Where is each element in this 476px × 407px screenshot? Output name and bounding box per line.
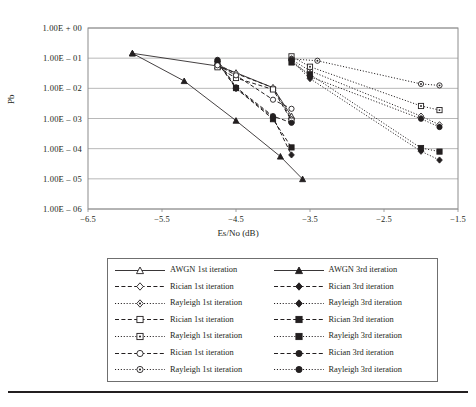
legend-triangle-open-icon: [114, 265, 166, 276]
legend-diamond-open-icon: [114, 281, 166, 292]
series-line: [218, 65, 292, 108]
legend-label: Rayleigh 3rd iteration: [329, 366, 403, 374]
x-tick-label-2: −4.5: [216, 214, 256, 224]
legend-diamond-filled-icon: [273, 298, 325, 309]
legend-square-open-icon: [114, 314, 166, 325]
y-tick-label-1: 1.00E – 01: [20, 53, 82, 63]
legend-item-right-0[interactable]: AWGN 3rd iteration: [273, 262, 432, 279]
legend-label: Rayleigh 1st iteration: [170, 332, 242, 340]
series-line: [218, 67, 292, 120]
x-tick-label-4: −2.5: [364, 214, 404, 224]
legend-item-left-6[interactable]: Rayleigh 1st iteration: [114, 361, 273, 378]
legend-item-right-3[interactable]: Rician 3rd iteration: [273, 312, 432, 329]
legend-square-open-dot-icon: [114, 331, 166, 342]
legend-diamond-filled-icon: [273, 281, 325, 292]
legend-label: AWGN 3rd iteration: [329, 266, 398, 274]
legend-label: Rayleigh 3rd iteration: [329, 332, 403, 340]
legend-label: Rayleigh 1st iteration: [170, 299, 242, 307]
legend-circle-filled-icon: [273, 364, 325, 375]
y-tick-label-0: 1.00E + 00: [20, 23, 82, 33]
legend-label: Rician 1st iteration: [170, 316, 234, 324]
legend-item-right-4[interactable]: Rayleigh 3rd iteration: [273, 328, 432, 345]
legend-circle-open-dot-icon: [114, 364, 166, 375]
legend-item-right-1[interactable]: Rician 3rd iteration: [273, 279, 432, 296]
series-line: [132, 53, 291, 116]
series-line: [218, 61, 292, 155]
series-11: [215, 57, 294, 125]
legend-label: Rician 3rd iteration: [329, 283, 394, 291]
legend-item-right-2[interactable]: Rayleigh 3rd iteration: [273, 295, 432, 312]
y-tick-label-5: 1.00E – 05: [20, 174, 82, 184]
legend-diamond-open-dot-icon: [114, 298, 166, 309]
legend-item-left-3[interactable]: Rician 1st iteration: [114, 312, 273, 329]
legend-item-left-2[interactable]: Rayleigh 1st iteration: [114, 295, 273, 312]
x-axis-title: Es/No (dB): [0, 228, 476, 238]
footer-rule: [8, 391, 468, 393]
series-line: [292, 60, 440, 125]
y-tick-label-4: 1.00E – 04: [20, 144, 82, 154]
x-tick-label-0: −6.5: [68, 214, 108, 224]
legend-label: AWGN 1st iteration: [170, 266, 237, 274]
x-tick-label-5: −1.5: [438, 214, 476, 224]
legend-circle-open-icon: [114, 348, 166, 359]
legend-item-left-1[interactable]: Rician 1st iteration: [114, 279, 273, 296]
legend-label: Rayleigh 1st iteration: [170, 366, 242, 374]
legend-item-left-4[interactable]: Rayleigh 1st iteration: [114, 328, 273, 345]
legend-item-right-5[interactable]: Rician 3rd iteration: [273, 345, 432, 362]
series-line: [218, 60, 292, 123]
y-axis-title: Pb: [6, 94, 16, 104]
series-0: [129, 50, 294, 118]
legend-triangle-filled-icon: [273, 265, 325, 276]
series-line: [132, 53, 302, 179]
legend: AWGN 1st iterationAWGN 3rd iterationRici…: [107, 258, 438, 382]
series-line: [218, 62, 292, 147]
legend-square-filled-icon: [273, 314, 325, 325]
legend-label: Rayleigh 3rd iteration: [329, 299, 403, 307]
figure: 1.00E + 001.00E – 011.00E – 021.00E – 03…: [0, 0, 476, 407]
series-line: [218, 64, 292, 119]
plot-area: 1.00E + 001.00E – 011.00E – 021.00E – 03…: [0, 0, 476, 250]
legend-square-filled-icon: [273, 331, 325, 342]
y-tick-label-2: 1.00E – 02: [20, 83, 82, 93]
legend-label: Rician 3rd iteration: [329, 316, 394, 324]
legend-item-left-0[interactable]: AWGN 1st iteration: [114, 262, 273, 279]
legend-item-right-6[interactable]: Rayleigh 3rd iteration: [273, 361, 432, 378]
x-tick-label-1: −5.5: [142, 214, 182, 224]
y-tick-label-3: 1.00E – 03: [20, 114, 82, 124]
legend-label: Rician 1st iteration: [170, 283, 234, 291]
x-tick-label-3: −3.5: [290, 214, 330, 224]
y-tick-label-6: 1.00E – 06: [20, 204, 82, 214]
legend-item-left-5[interactable]: Rician 1st iteration: [114, 345, 273, 362]
legend-label: Rician 1st iteration: [170, 349, 234, 357]
series-line: [292, 62, 440, 151]
series-line: [292, 61, 440, 160]
legend-circle-filled-icon: [273, 348, 325, 359]
series-line: [292, 59, 440, 86]
legend-label: Rician 3rd iteration: [329, 349, 394, 357]
